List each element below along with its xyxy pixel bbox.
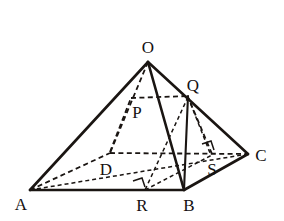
right-angle-at-R [133, 178, 145, 187]
vertex-label-O: O [142, 39, 154, 56]
edge-Q-B [184, 96, 188, 190]
edge-Q-R [145, 97, 188, 190]
edge-O-A [30, 62, 148, 190]
vertex-label-A: A [15, 196, 27, 213]
vertex-label-P: P [132, 104, 142, 121]
vertex-label-C: C [255, 147, 267, 164]
vertex-label-Q: Q [187, 77, 199, 94]
edge-O-B [148, 62, 184, 190]
edge-D-C [110, 153, 248, 154]
vertex-label-D: D [100, 161, 112, 178]
edge-A-D [30, 153, 110, 190]
edge-O-D [110, 62, 148, 153]
pyramid-diagram-svg [0, 0, 284, 221]
edge-Q-S-inner [188, 97, 210, 153]
edge-P-Q [131, 96, 188, 98]
geometry-figure: O Q P C D S A R B [0, 0, 284, 221]
vertex-label-S: S [207, 161, 217, 178]
vertex-label-R: R [136, 197, 148, 214]
edge-D-P [110, 98, 131, 152]
vertex-label-B: B [183, 197, 195, 214]
